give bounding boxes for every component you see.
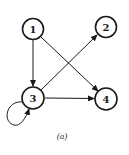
- edge-3-to-4: [45, 98, 94, 99]
- figure-caption: (a): [57, 131, 68, 141]
- node-2-label: 2: [103, 22, 110, 33]
- edge-1-to-4: [41, 37, 98, 91]
- node-1-label: 1: [30, 24, 37, 35]
- node-3: 3: [22, 87, 44, 109]
- graph-canvas: 1 2 3 4 (a): [0, 0, 129, 155]
- node-3-label: 3: [30, 93, 37, 104]
- node-1: 1: [23, 19, 44, 40]
- node-4-label: 4: [103, 94, 110, 105]
- node-4: 4: [95, 88, 117, 110]
- node-2: 2: [96, 17, 117, 38]
